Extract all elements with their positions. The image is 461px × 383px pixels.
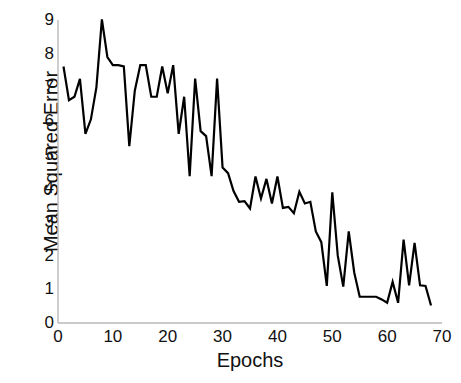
chart-figure: Mean Squared Error 0123456789 0102030405… bbox=[0, 0, 461, 383]
x-tick-label: 40 bbox=[257, 328, 297, 345]
mse-data-line bbox=[63, 19, 431, 305]
x-tick-label: 30 bbox=[203, 328, 243, 345]
x-tick-label: 60 bbox=[367, 328, 407, 345]
x-tick-label: 70 bbox=[422, 328, 461, 345]
x-tick-label: 50 bbox=[312, 328, 352, 345]
x-tick-label: 0 bbox=[38, 328, 78, 345]
x-axis-label: Epochs bbox=[58, 349, 442, 372]
plot-area bbox=[0, 0, 461, 383]
x-tick-label: 20 bbox=[148, 328, 188, 345]
x-tick-label: 10 bbox=[93, 328, 133, 345]
x-axis-tick-labels: 010203040506070 bbox=[0, 328, 461, 350]
